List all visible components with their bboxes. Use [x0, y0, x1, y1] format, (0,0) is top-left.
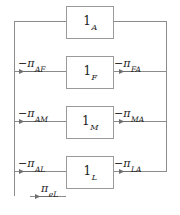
edge-label-af: −πAF: [18, 58, 45, 72]
edge-label-la: −πLA: [114, 158, 141, 172]
edge-label-al: −πAL: [18, 158, 45, 172]
node-label-f: 1F: [83, 65, 96, 80]
edge-label-el: πeL: [41, 183, 58, 197]
node-box-f[interactable]: 1F: [66, 56, 114, 89]
node-label-a: 1A: [83, 15, 96, 30]
node-box-l[interactable]: 1L: [66, 156, 114, 189]
node-box-a[interactable]: 1A: [66, 6, 114, 39]
node-box-m[interactable]: 1M: [66, 106, 114, 139]
node-label-m: 1M: [82, 115, 98, 130]
edge-label-am: −πAM: [18, 108, 48, 122]
edge-label-fa: −πFA: [114, 58, 140, 72]
edge-label-ma: −πMA: [114, 108, 144, 122]
node-label-l: 1L: [84, 165, 97, 180]
flow-diagram: 1A 1F 1M 1L −πAF −πFA −πAM −πMA −πAL −πL…: [0, 0, 180, 215]
